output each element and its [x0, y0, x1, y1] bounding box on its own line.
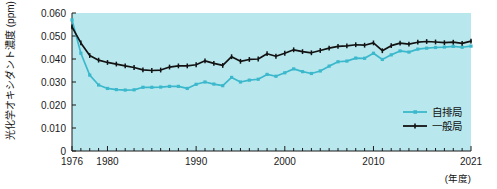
- x-tick-label: 2010: [362, 156, 385, 167]
- y-tick-label: 0.060: [41, 8, 66, 19]
- data-point: [221, 84, 224, 87]
- plot-area-background: [72, 13, 471, 151]
- data-point: [354, 56, 357, 59]
- data-point: [141, 86, 144, 89]
- data-point: [168, 85, 171, 88]
- legend-label: 一般局: [432, 120, 462, 132]
- data-point: [452, 45, 455, 48]
- y-tick-label: 0: [60, 146, 66, 157]
- oxidant-concentration-line-chart: 00.0100.0200.0300.0400.0500.060 19761980…: [0, 0, 497, 189]
- data-point: [469, 45, 472, 48]
- data-point: [310, 72, 313, 75]
- data-point: [398, 49, 401, 52]
- legend-label: 自排局: [432, 106, 462, 118]
- data-point: [212, 82, 215, 85]
- data-point: [195, 83, 198, 86]
- chart-figure: 00.0100.0200.0300.0400.0500.060 19761980…: [0, 0, 497, 189]
- data-point: [425, 47, 428, 50]
- data-point: [248, 79, 251, 82]
- data-point: [283, 71, 286, 74]
- x-tick-label: 1990: [185, 156, 208, 167]
- data-point: [106, 87, 109, 90]
- data-point: [274, 75, 277, 78]
- data-point: [132, 88, 135, 91]
- data-point: [79, 52, 82, 55]
- data-point: [328, 65, 331, 68]
- y-tick-label: 0.020: [41, 100, 66, 111]
- data-point: [97, 83, 100, 86]
- data-point: [239, 80, 242, 83]
- data-point: [443, 45, 446, 48]
- data-point: [88, 74, 91, 77]
- data-point: [186, 87, 189, 90]
- data-point: [336, 60, 339, 63]
- data-point: [345, 59, 348, 62]
- y-axis-title-text: 光化学オキシダント濃度 (ppm): [4, 1, 16, 140]
- y-tick-label: 0.040: [41, 54, 66, 65]
- data-point: [124, 88, 127, 91]
- data-point: [434, 46, 437, 49]
- data-point: [363, 57, 366, 60]
- y-tick-label: 0.050: [41, 31, 66, 42]
- data-point: [416, 48, 419, 51]
- y-tick-label: 0.030: [41, 77, 66, 88]
- x-tick-label: 2000: [274, 156, 297, 167]
- x-tick-label: 1980: [96, 156, 119, 167]
- data-point: [159, 85, 162, 88]
- data-point: [301, 70, 304, 73]
- data-point: [230, 76, 233, 79]
- data-point: [150, 86, 153, 89]
- data-point: [70, 18, 73, 21]
- y-axis-title: 光化学オキシダント濃度 (ppm): [4, 1, 16, 140]
- data-point: [390, 53, 393, 56]
- x-tick-label: 2021: [460, 156, 483, 167]
- data-point: [115, 88, 118, 91]
- data-point: [461, 46, 464, 49]
- data-point: [177, 85, 180, 88]
- x-tick-label: 1976: [61, 156, 84, 167]
- data-point: [381, 58, 384, 61]
- legend-swatch-marker: [413, 110, 417, 114]
- data-point: [265, 73, 268, 76]
- data-point: [203, 80, 206, 83]
- data-point: [372, 52, 375, 55]
- data-point: [292, 67, 295, 70]
- data-point: [319, 69, 322, 72]
- y-tick-label: 0.010: [41, 123, 66, 134]
- x-axis-unit-label: (年度): [445, 173, 471, 184]
- data-point: [257, 78, 260, 81]
- data-point: [407, 51, 410, 54]
